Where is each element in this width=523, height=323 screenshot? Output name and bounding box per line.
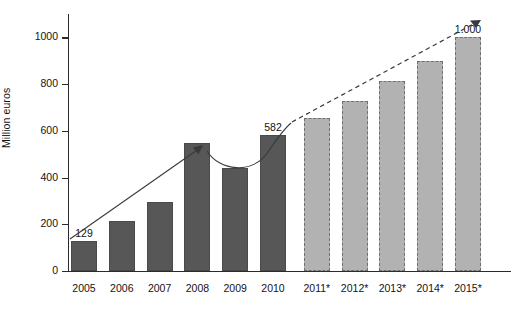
plot-area: 02004006008001000 1295821.000 2005200620… (68, 14, 512, 272)
bar-actual (222, 168, 248, 271)
x-axis-tick-label: 2011* (303, 282, 330, 294)
bar-forecast: 1.000 (455, 37, 481, 271)
x-axis-tick-label: 2015* (454, 282, 481, 294)
y-axis-title: Million euros (0, 68, 18, 148)
x-axis-tick-label: 2008 (186, 282, 209, 294)
y-axis-line (68, 14, 69, 272)
x-axis-tick-label: 2005 (72, 282, 95, 294)
y-axis-tick-label: 0 (52, 264, 58, 276)
y-axis-tick: 600 (62, 131, 69, 132)
y-axis-tick-label: 1000 (35, 30, 58, 42)
bar-chart: Million euros 02004006008001000 1295821.… (0, 0, 523, 323)
x-axis-tick-label: 2009 (224, 282, 247, 294)
x-axis-tick-label: 2014* (416, 282, 443, 294)
y-axis-tick: 800 (62, 84, 69, 85)
x-axis-tick-label: 2010 (261, 282, 284, 294)
bar-value-label: 129 (75, 227, 93, 239)
bar-actual: 582 (260, 135, 286, 271)
bar-forecast (379, 81, 405, 271)
bar-actual (147, 202, 173, 271)
x-axis-tick-label: 2013* (379, 282, 406, 294)
y-axis-tick-label: 200 (40, 217, 58, 229)
bar-actual: 129 (71, 241, 97, 271)
bar-forecast (304, 118, 330, 271)
y-axis-tick-label: 400 (40, 171, 58, 183)
bar-value-label: 582 (264, 121, 282, 133)
x-axis-line (68, 271, 511, 272)
x-axis-tick-label: 2007 (148, 282, 171, 294)
bar-actual (109, 221, 135, 271)
bar-forecast (342, 101, 368, 271)
y-axis-tick: 400 (62, 178, 69, 179)
x-axis-tick-label: 2012* (341, 282, 368, 294)
bar-value-label: 1.000 (455, 23, 481, 35)
x-axis-tick-label: 2006 (110, 282, 133, 294)
y-axis-tick: 200 (62, 224, 69, 225)
y-axis-tick: 0 (62, 271, 69, 272)
y-axis-tick-label: 800 (40, 77, 58, 89)
bar-forecast (417, 61, 443, 271)
y-axis-tick: 1000 (62, 37, 69, 38)
bar-actual (184, 143, 210, 272)
y-axis-tick-label: 600 (40, 124, 58, 136)
